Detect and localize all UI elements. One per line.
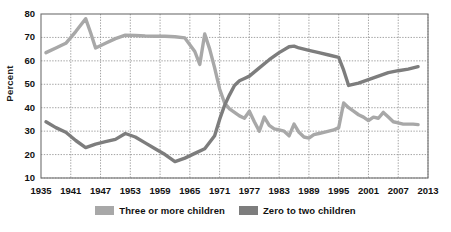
plot-area [0, 0, 451, 232]
legend-swatch [95, 206, 114, 215]
series-line [46, 46, 418, 162]
series-line [46, 19, 418, 138]
legend-entry: Zero to two children [239, 205, 356, 216]
chart-legend: Three or more childrenZero to two childr… [0, 205, 451, 216]
legend-swatch [239, 206, 258, 215]
legend-label: Three or more children [119, 205, 225, 216]
legend-entry: Three or more children [95, 205, 225, 216]
legend-label: Zero to two children [263, 205, 356, 216]
line-chart: Percent 1020304050607080 193519411947195… [0, 0, 451, 232]
plot-border [41, 14, 428, 178]
